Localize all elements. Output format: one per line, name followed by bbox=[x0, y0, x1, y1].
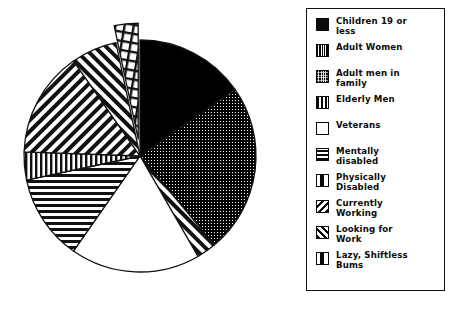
legend-item[interactable]: Physically Disabled bbox=[316, 172, 438, 193]
chart-canvas: Children 19 or lessAdult WomenAdult men … bbox=[0, 0, 457, 309]
swatch-center-bar-icon bbox=[316, 174, 329, 187]
legend-item-label: Physically Disabled bbox=[336, 172, 386, 192]
swatch-diagonal-fwd-icon bbox=[316, 226, 329, 239]
legend-item-label: Veterans bbox=[336, 120, 380, 131]
swatch-vertical-wide-icon bbox=[316, 96, 329, 109]
legend-item-label: Lazy, Shiftless Bums bbox=[336, 250, 408, 270]
legend-item-label: Elderly Men bbox=[336, 94, 395, 105]
legend-item-label: Children 19 or less bbox=[336, 16, 407, 36]
swatch-horizontal-icon bbox=[316, 148, 329, 161]
legend-item-label: Looking for Work bbox=[336, 224, 393, 244]
legend-item[interactable]: Veterans bbox=[316, 120, 438, 141]
legend-item[interactable]: Looking for Work bbox=[316, 224, 438, 245]
swatch-diagonal-back-icon bbox=[316, 200, 329, 213]
swatch-dense-vertical-icon bbox=[316, 44, 329, 57]
legend-item[interactable]: Currently Working bbox=[316, 198, 438, 219]
legend-item[interactable]: Elderly Men bbox=[316, 94, 438, 115]
legend-item-label: Adult men in family bbox=[336, 68, 400, 88]
pie-chart bbox=[0, 0, 300, 309]
pie-chart-svg bbox=[0, 0, 300, 309]
swatch-dense-dots-icon bbox=[316, 70, 329, 83]
legend-box: Children 19 or lessAdult WomenAdult men … bbox=[306, 8, 445, 291]
legend-item[interactable]: Adult men in family bbox=[316, 68, 438, 89]
legend-list: Children 19 or lessAdult WomenAdult men … bbox=[316, 16, 438, 276]
swatch-white-icon bbox=[316, 122, 329, 135]
swatch-center-bar-2-icon bbox=[316, 252, 329, 265]
legend-item-label: Mentally disabled bbox=[336, 146, 379, 166]
legend-item-label: Currently Working bbox=[336, 198, 383, 218]
swatch-solid-black-icon bbox=[316, 18, 329, 31]
legend-item[interactable]: Lazy, Shiftless Bums bbox=[316, 250, 438, 271]
legend-item-label: Adult Women bbox=[336, 42, 403, 53]
legend-item[interactable]: Mentally disabled bbox=[316, 146, 438, 167]
legend-item[interactable]: Adult Women bbox=[316, 42, 438, 63]
legend-item[interactable]: Children 19 or less bbox=[316, 16, 438, 37]
